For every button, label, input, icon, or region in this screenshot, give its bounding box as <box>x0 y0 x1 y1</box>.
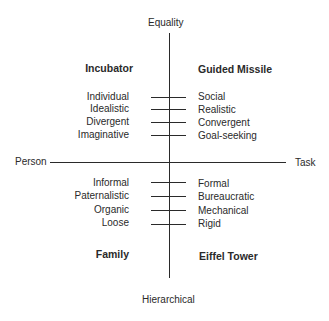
axis-label-top: Equality <box>148 17 184 29</box>
quadrant-eiffel-tower: Eiffel Tower <box>199 250 258 262</box>
upper-left-3: Imaginative <box>78 129 129 141</box>
upper-right-1: Realistic <box>198 104 236 116</box>
axis-label-left: Person <box>15 156 47 168</box>
upper-left-2: Divergent <box>86 116 129 128</box>
axis-label-right: Task <box>295 157 316 169</box>
axis-label-bottom: Hierarchical <box>142 294 195 306</box>
upper-right-3: Goal-seeking <box>198 130 257 142</box>
tick <box>151 97 186 98</box>
lower-left-1: Paternalistic <box>75 190 129 202</box>
upper-right-0: Social <box>198 91 225 103</box>
tick <box>151 210 186 211</box>
tick <box>151 135 186 136</box>
tick <box>151 224 186 225</box>
vertical-axis <box>169 33 170 278</box>
quadrant-family: Family <box>96 248 129 260</box>
tick <box>151 122 186 123</box>
lower-right-1: Bureaucratic <box>198 191 254 203</box>
tick <box>151 182 186 183</box>
lower-right-0: Formal <box>198 178 229 190</box>
lower-left-2: Organic <box>94 204 129 216</box>
lower-left-3: Loose <box>102 217 129 229</box>
upper-left-0: Individual <box>87 91 129 103</box>
lower-right-3: Rigid <box>198 218 221 230</box>
lower-left-0: Informal <box>93 177 129 189</box>
tick <box>151 196 186 197</box>
horizontal-axis <box>50 162 286 163</box>
lower-right-2: Mechanical <box>198 205 249 217</box>
quadrant-guided-missile: Guided Missile <box>198 63 272 75</box>
quadrant-incubator: Incubator <box>85 62 133 74</box>
tick <box>151 109 186 110</box>
upper-left-1: Idealistic <box>90 103 129 115</box>
upper-right-2: Convergent <box>198 117 250 129</box>
